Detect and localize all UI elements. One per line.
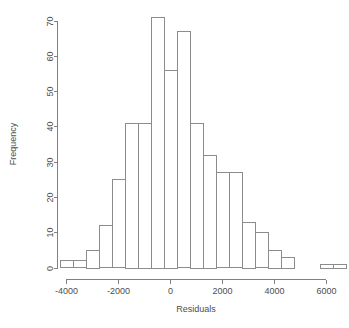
- histogram-bar: [139, 124, 152, 269]
- histogram-canvas: 010203040506070 -4000-20000200040006000 …: [0, 0, 349, 328]
- x-tick-label: 4000: [264, 286, 284, 296]
- histogram-bar: [282, 258, 295, 269]
- histogram-bar: [204, 156, 217, 269]
- histogram-bar: [191, 124, 204, 269]
- y-tick-label: 20: [45, 192, 55, 202]
- x-tick-label: 2000: [212, 286, 232, 296]
- histogram-bar: [334, 265, 347, 269]
- histogram-bar: [321, 265, 334, 269]
- x-tick-label: -2000: [107, 286, 130, 296]
- x-tick-label: 6000: [316, 286, 336, 296]
- y-tick-label: 70: [45, 16, 55, 26]
- histogram-bar: [126, 124, 139, 269]
- x-tick-label: -4000: [55, 286, 78, 296]
- y-axis-title: Frequency: [8, 122, 18, 165]
- histogram-bar: [256, 233, 269, 268]
- histogram-bar: [269, 251, 282, 269]
- histogram-bar: [152, 18, 165, 269]
- histogram-bar: [74, 261, 87, 268]
- histogram-plot-panel: 010203040506070 -4000-20000200040006000 …: [0, 0, 349, 328]
- y-tick-label: 40: [45, 121, 55, 131]
- x-axis-title: Residuals: [176, 304, 216, 314]
- y-tick-label: 30: [45, 157, 55, 167]
- x-tick-label: 0: [168, 286, 173, 296]
- histogram-bar: [230, 173, 243, 268]
- histogram-bar: [243, 223, 256, 269]
- y-tick-label: 50: [45, 86, 55, 96]
- x-axis: -4000-20000200040006000: [55, 280, 337, 296]
- histogram-bar: [165, 71, 178, 269]
- histogram-bar: [217, 173, 230, 268]
- histogram-bars: [61, 18, 347, 269]
- y-tick-label: 0: [45, 266, 55, 271]
- histogram-bar: [61, 261, 74, 268]
- histogram-bar: [100, 226, 113, 268]
- y-tick-label: 60: [45, 51, 55, 61]
- y-tick-label: 10: [45, 227, 55, 237]
- histogram-bar: [178, 32, 191, 268]
- histogram-bar: [87, 251, 100, 269]
- histogram-bar: [113, 180, 126, 268]
- y-axis: 010203040506070: [45, 16, 58, 271]
